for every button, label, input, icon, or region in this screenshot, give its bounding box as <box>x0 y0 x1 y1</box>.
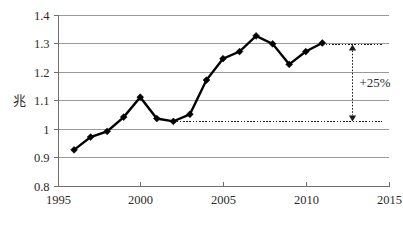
line-chart: 0.80.911.11.21.31.4 19952000200520102015… <box>0 0 403 225</box>
y-tick-label: 1.4 <box>34 9 50 23</box>
y-tick-label: 1.3 <box>34 37 50 51</box>
x-tick-label: 1995 <box>46 193 71 207</box>
growth-callout-label: +25% <box>360 75 391 90</box>
chart-canvas: 0.80.911.11.21.31.4 19952000200520102015… <box>0 0 403 225</box>
chart-background <box>0 0 403 225</box>
y-tick-label: 0.9 <box>34 151 50 165</box>
x-tick-label: 2000 <box>128 193 153 207</box>
y-tick-label: 1.1 <box>34 94 50 108</box>
x-tick-label: 2005 <box>211 193 236 207</box>
x-tick-label: 2015 <box>377 193 402 207</box>
x-tick-label: 2010 <box>294 193 319 207</box>
y-axis-title: 兆 <box>13 93 26 108</box>
y-tick-label: 1 <box>43 123 49 137</box>
y-tick-label: 1.2 <box>34 66 50 80</box>
